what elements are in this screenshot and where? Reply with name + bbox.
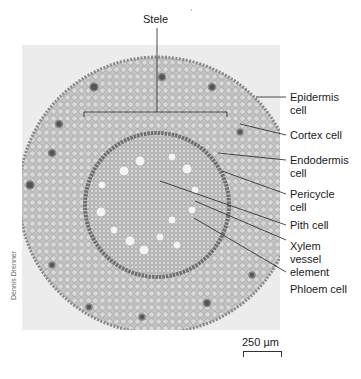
label-stele: Stele [143, 13, 168, 26]
label-cortex: Cortex cell [290, 129, 342, 142]
pericycle-leader-line [222, 171, 286, 194]
cortex-leader-line [240, 124, 286, 135]
photo-credit: Dennis Drenner [10, 251, 17, 300]
label-epidermis: Epidermis cell [290, 91, 339, 117]
label-xylem: Xylem vessel element [290, 240, 329, 279]
phloem-leader-line [194, 218, 286, 272]
scale-bar [243, 351, 282, 357]
label-pith: Pith cell [290, 219, 329, 232]
scale-bar-label: 250 µm [242, 336, 279, 348]
endodermis-leader-line [218, 153, 286, 160]
label-endodermis: Endodermis cell [290, 154, 349, 180]
label-phloem: Phloem cell [290, 283, 347, 296]
stele-bracket [84, 112, 227, 117]
label-pericycle: Pericycle cell [290, 188, 335, 214]
